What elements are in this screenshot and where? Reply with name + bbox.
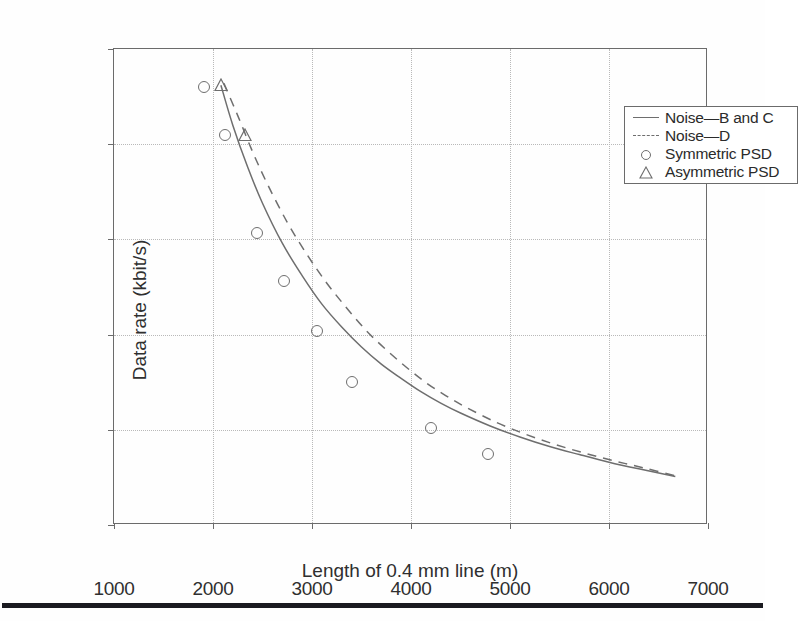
circle-marker: [311, 325, 323, 337]
plot-area: 1000200030004000500060007000 05001000150…: [113, 48, 707, 524]
legend-item-noise-b-and-c: Noise—B and C: [625, 109, 797, 127]
circle-marker-key: [629, 146, 665, 162]
legend-label: Noise—D: [665, 127, 730, 145]
triangle-marker: [214, 78, 228, 92]
triangle-marker-key: [629, 164, 665, 180]
y-tick: [108, 525, 114, 526]
x-tick: [708, 523, 709, 529]
circle-marker: [425, 422, 437, 434]
circle-marker: [198, 81, 210, 93]
bottom-divider-rule: [2, 603, 763, 608]
dashed-line-key: [629, 128, 665, 144]
x-axis-title: Length of 0.4 mm line (m): [113, 560, 707, 582]
legend-label: Symmetric PSD: [665, 145, 772, 163]
legend-item-asymmetric-psd: Asymmetric PSD: [625, 163, 797, 181]
legend-item-symmetric-psd: Symmetric PSD: [625, 145, 797, 163]
legend-label: Asymmetric PSD: [665, 163, 779, 181]
circle-marker: [482, 448, 494, 460]
circle-marker: [346, 376, 358, 388]
chart-legend: Noise—B and C Noise—D Symmetric PSD Asym…: [624, 106, 798, 184]
triangle-marker: [238, 128, 252, 142]
y-axis-title: Data rate (kbit/s): [129, 110, 151, 510]
noise-d-curve: [224, 83, 675, 476]
legend-item-noise-d: Noise—D: [625, 127, 797, 145]
series-curves: [114, 49, 708, 525]
circle-marker: [219, 129, 231, 141]
legend-label: Noise—B and C: [665, 109, 774, 127]
circle-marker: [251, 227, 263, 239]
solid-line-key: [629, 110, 665, 126]
